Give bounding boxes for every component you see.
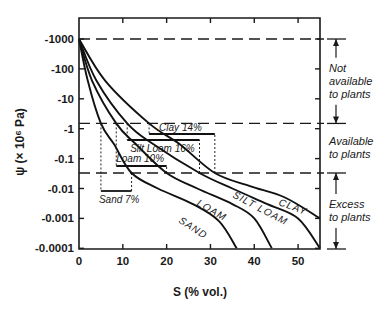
plant-availability-annotations: Notavailableto plantsAvailableto plantsE… — [327, 39, 373, 249]
annotation-text: to plants — [329, 211, 371, 223]
annotation-text: to plants — [329, 148, 371, 160]
arrow-head-icon — [333, 173, 339, 180]
annotation-text: available — [329, 75, 372, 87]
annotation-text: Available — [328, 135, 373, 147]
annotation-text: Excess — [329, 198, 365, 210]
x-tick-label: 40 — [248, 255, 261, 267]
y-tick-label: -0.1 — [54, 153, 74, 165]
x-tick-label: 50 — [292, 255, 305, 267]
x-tick-label: 10 — [116, 255, 129, 267]
y-tick-label: -0.0001 — [35, 242, 75, 254]
arrow-head-icon — [333, 116, 339, 123]
x-tick-label: 0 — [76, 255, 82, 267]
curve-label: SAND — [177, 214, 210, 241]
curve-label: LOAM — [195, 197, 229, 223]
x-axis-title: S (% vol.) — [173, 285, 227, 299]
y-tick-label: -0.01 — [48, 183, 75, 195]
y-axis-title: ψ (× 10⁶ Pa) — [13, 108, 27, 176]
x-tick-label: 30 — [204, 255, 217, 267]
annotation-text: to plants — [329, 88, 371, 100]
annotation-text: Not — [329, 62, 347, 74]
soil-water-retention-chart: Sand 7%Loam 10%Silt Loam 16%Clay 14% SAN… — [0, 0, 391, 315]
arrow-head-icon — [333, 242, 339, 249]
arrow-head-icon — [333, 39, 339, 46]
y-tick-label: -1000 — [45, 33, 74, 45]
y-tick-label: -0.001 — [41, 212, 74, 224]
y-tick-label: -100 — [51, 63, 74, 75]
available-water-label: Sand 7% — [99, 194, 140, 205]
y-tick-label: -10 — [57, 93, 74, 105]
y-tick-label: -1 — [64, 123, 75, 135]
x-tick-label: 20 — [160, 255, 173, 267]
available-water-boxes: Sand 7%Loam 10%Silt Loam 16%Clay 14% — [99, 122, 215, 205]
available-water-label: Clay 14% — [159, 122, 202, 133]
